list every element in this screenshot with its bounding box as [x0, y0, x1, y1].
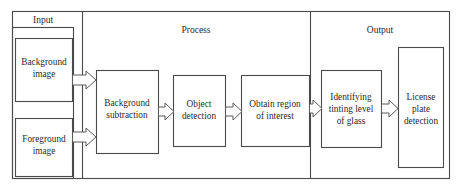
arrow-object-detection-to-obtain-region: [226, 103, 243, 120]
arrow-foreground-image-to-subtraction: [73, 128, 97, 146]
section-label-input: Input: [33, 15, 53, 25]
arrow-identify-tinting-to-license-plate: [382, 100, 399, 117]
node-object-detection-label-2: detection: [182, 111, 216, 121]
flowchart-canvas: Input Process Output Background image Fo…: [0, 0, 462, 189]
node-identify-tinting-label-2: tinting level: [329, 104, 374, 114]
node-foreground-image-label: Foreground: [22, 134, 66, 144]
node-background-subtraction-label-2: subtraction: [106, 110, 148, 120]
outer-frame: [13, 12, 450, 179]
arrow-background-image-to-subtraction: [73, 71, 97, 89]
node-background-image-label-2: image: [33, 69, 56, 79]
node-identify-tinting-label-3: of glass: [337, 116, 366, 126]
node-license-plate-label: License: [407, 92, 436, 102]
section-label-output: Output: [367, 25, 394, 35]
node-background-image-label: Background: [21, 57, 67, 67]
node-object-detection-label: Object: [187, 99, 212, 109]
arrow-obtain-region-to-identify-tinting: [310, 100, 323, 117]
node-identify-tinting-label: Identifying: [330, 92, 372, 102]
arrow-subtraction-to-object-detection: [159, 103, 175, 120]
node-obtain-region-label-2: of interest: [256, 111, 294, 121]
node-foreground-image-label-2: image: [33, 146, 56, 156]
flowchart-diagram: Input Process Output Background image Fo…: [0, 0, 462, 189]
section-label-process: Process: [181, 25, 210, 35]
node-license-plate-label-2: plate: [412, 104, 430, 114]
node-obtain-region-label: Obtain region: [249, 99, 301, 109]
node-license-plate-label-3: detection: [404, 116, 438, 126]
node-background-subtraction-label: Background: [104, 98, 150, 108]
